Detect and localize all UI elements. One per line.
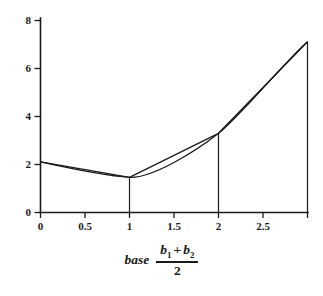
x-tick-label: 0.5 [78, 220, 92, 232]
chart-figure: 0 2 4 6 8 0 0.5 1 1.5 2 2.5 [0, 0, 323, 296]
x-tick-label: 2.5 [256, 220, 270, 232]
curve-series [41, 42, 308, 178]
drop-lines [130, 42, 308, 213]
chord-series [41, 42, 308, 178]
y-tick-label: 2 [26, 158, 32, 170]
chart-plot-area: 0 2 4 6 8 0 0.5 1 1.5 2 2.5 [0, 0, 323, 296]
x-tick-label: 0 [38, 220, 44, 232]
x-axis-tick-labels: 0 0.5 1 1.5 2 2.5 [38, 220, 271, 232]
y-tick-label: 0 [26, 206, 32, 218]
x-tick-label: 1.5 [167, 220, 181, 232]
x-axis-ticks [41, 213, 308, 219]
y-tick-label: 8 [26, 14, 32, 26]
x-tick-label: 2 [216, 220, 222, 232]
x-tick-label: 1 [127, 220, 133, 232]
y-axis-ticks [35, 21, 41, 213]
y-tick-label: 4 [26, 110, 32, 122]
y-axis-tick-labels: 0 2 4 6 8 [26, 14, 32, 218]
y-tick-label: 6 [26, 62, 32, 74]
